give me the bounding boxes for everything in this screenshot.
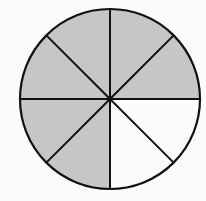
fraction-circle-diagram xyxy=(0,0,206,201)
circle-divided-into-eighths xyxy=(0,0,206,201)
center-point xyxy=(108,97,113,102)
